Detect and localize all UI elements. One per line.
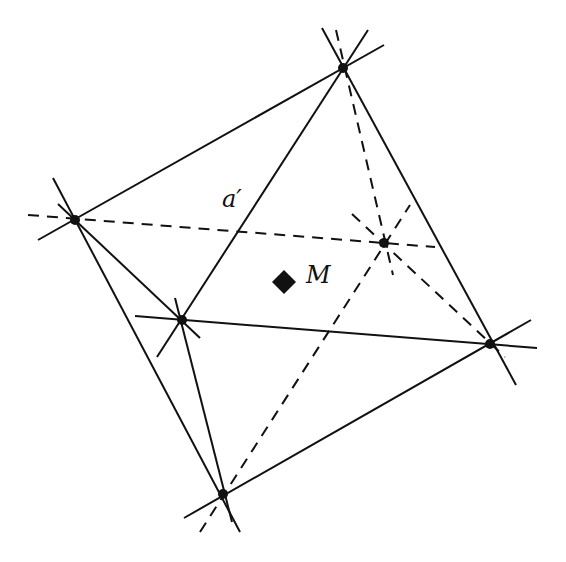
solid-line <box>38 45 384 240</box>
vertex-top <box>338 63 348 73</box>
label-a-prime: a′ <box>222 185 242 213</box>
vertex-right <box>485 339 495 349</box>
solid-line <box>322 28 516 385</box>
solid-line <box>175 298 232 522</box>
solid-line <box>184 320 531 518</box>
label-m: M <box>305 261 332 289</box>
point-m-diamond-marker <box>272 270 296 294</box>
vertex-inner <box>177 315 187 325</box>
vertex-center <box>379 238 389 248</box>
geometry-diagram: a′ M <box>0 0 566 562</box>
dashed-lines <box>28 30 505 532</box>
solid-line <box>53 178 240 532</box>
solid-line <box>157 30 368 357</box>
dashed-line <box>200 205 410 532</box>
vertex-bottom <box>218 489 228 499</box>
vertex-left <box>70 215 80 225</box>
